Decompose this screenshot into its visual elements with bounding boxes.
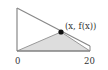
axis-label-twenty: 20 [84, 56, 95, 66]
axis-label-zero: 0 [15, 56, 20, 66]
shaded-triangle [17, 32, 90, 51]
diagram: (x, f(x)) 0 20 [0, 0, 108, 70]
point-label: (x, f(x)) [65, 21, 96, 31]
point-marker [58, 29, 63, 34]
